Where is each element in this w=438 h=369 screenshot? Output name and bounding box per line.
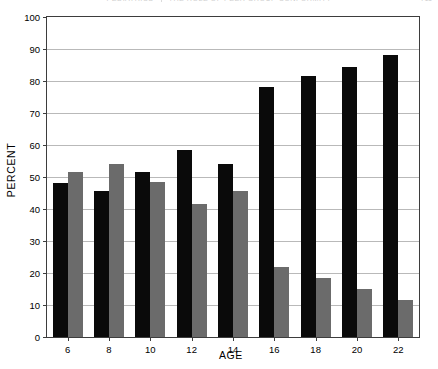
- y-axis-tick-label: 70: [10, 108, 40, 119]
- running-head: PEDIATRICS THE ROLE OF PEER GROUP CONFOR…: [0, 0, 438, 3]
- axis-ticks: 01020304050607080901006810121416182022: [47, 17, 419, 337]
- y-axis-tick-label: 100: [10, 12, 40, 23]
- y-axis-tick: [43, 337, 47, 338]
- page-number: 711: [421, 0, 432, 3]
- y-axis-tick: [43, 305, 47, 306]
- x-axis-tick: [192, 337, 193, 341]
- y-axis-tick-label: 90: [10, 44, 40, 55]
- y-axis-tick: [43, 17, 47, 18]
- y-axis-tick: [43, 241, 47, 242]
- x-axis-tick: [109, 337, 110, 341]
- y-axis-tick-label: 80: [10, 76, 40, 87]
- x-axis-tick: [233, 337, 234, 341]
- y-axis-tick: [43, 49, 47, 50]
- y-axis-tick-label: 20: [10, 268, 40, 279]
- y-axis-tick-label: 60: [10, 140, 40, 151]
- running-head-left: PEDIATRICS: [107, 0, 154, 3]
- x-axis-title-text: AGE: [219, 349, 243, 361]
- running-head-rule: [161, 0, 162, 2]
- x-axis-tick: [68, 337, 69, 341]
- y-axis-tick: [43, 273, 47, 274]
- y-axis-tick: [43, 81, 47, 82]
- y-axis-tick-label: 40: [10, 204, 40, 215]
- y-axis-tick: [43, 113, 47, 114]
- y-axis-tick: [43, 177, 47, 178]
- x-axis-tick: [274, 337, 275, 341]
- x-axis-tick: [316, 337, 317, 341]
- y-axis-tick: [43, 209, 47, 210]
- running-head-center: THE ROLE OF PEER GROUP CONFORMITY: [169, 0, 332, 3]
- y-axis-tick-label: 30: [10, 236, 40, 247]
- x-axis-tick: [398, 337, 399, 341]
- y-axis-tick-label: 10: [10, 300, 40, 311]
- plot-area: 01020304050607080901006810121416182022: [46, 16, 420, 338]
- bar-chart-figure: PEDIATRICS THE ROLE OF PEER GROUP CONFOR…: [0, 0, 438, 369]
- y-axis-tick: [43, 145, 47, 146]
- y-axis-tick-label: 50: [10, 172, 40, 183]
- x-axis-title: AGE: [42, 349, 420, 361]
- y-axis-tick-label: 0: [10, 332, 40, 343]
- x-axis-tick: [150, 337, 151, 341]
- x-axis-tick: [357, 337, 358, 341]
